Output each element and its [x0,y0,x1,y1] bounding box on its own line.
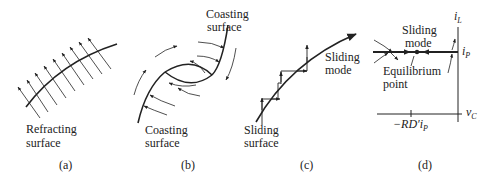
x-tick-text: −RD′i [393,117,423,131]
coasting-surface-bottom-label-line2: surface [145,137,180,150]
refracting-surface-label-line1: Refracting [26,123,77,136]
panel-a-drawing [18,38,117,118]
sliding-surface-curve [256,34,356,122]
coasting-surface-bottom [138,72,165,123]
y-axis-subscript: L [457,16,461,25]
sliding-surface-label-line2: surface [244,137,279,150]
panel-c-caption: (c) [300,158,313,173]
panel-b-caption: (b) [181,158,195,173]
coasting-surface-left [138,64,215,123]
figure: Refracting surface (a) Coasting surface … [0,0,495,182]
trajectory-upper [165,64,212,75]
x-axis-subscript: C [471,112,476,121]
x-tick-subscript: P [423,124,428,133]
panel-a-caption: (a) [59,158,72,173]
y-axis-label: iL [454,10,462,27]
refracting-surface-curve [26,44,117,107]
refracting-surface-label-line2: surface [26,137,61,150]
panel-d-caption: (d) [418,158,432,173]
x-tick-label: −RD′iP [393,118,428,135]
x-axis-label: vC [466,106,477,123]
d-sliding-mode-label-line2: mode [405,37,432,50]
i-p-subscript: P [465,51,470,60]
panel-c-drawing [256,34,356,125]
coasting-surface-top-label-line2: surface [207,21,242,34]
panel-b-drawing [134,25,236,123]
sliding-mode-label-line2: mode [325,64,352,77]
trajectory-lower [165,72,212,83]
equilibrium-point [415,50,419,54]
equilibrium-point-label-line2: point [383,78,408,91]
i-p-label: iP [462,45,470,62]
